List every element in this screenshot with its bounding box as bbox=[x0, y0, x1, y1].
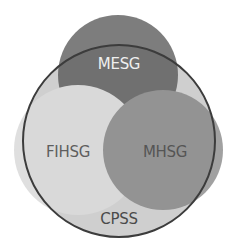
mesg-label: MESG bbox=[98, 55, 140, 73]
cpss-label: CPSS bbox=[100, 210, 137, 228]
mhsg-label: MHSG bbox=[143, 143, 187, 161]
fihsg-label: FIHSG bbox=[46, 143, 90, 161]
venn-diagram: MESG FIHSG MHSG CPSS bbox=[0, 0, 239, 249]
